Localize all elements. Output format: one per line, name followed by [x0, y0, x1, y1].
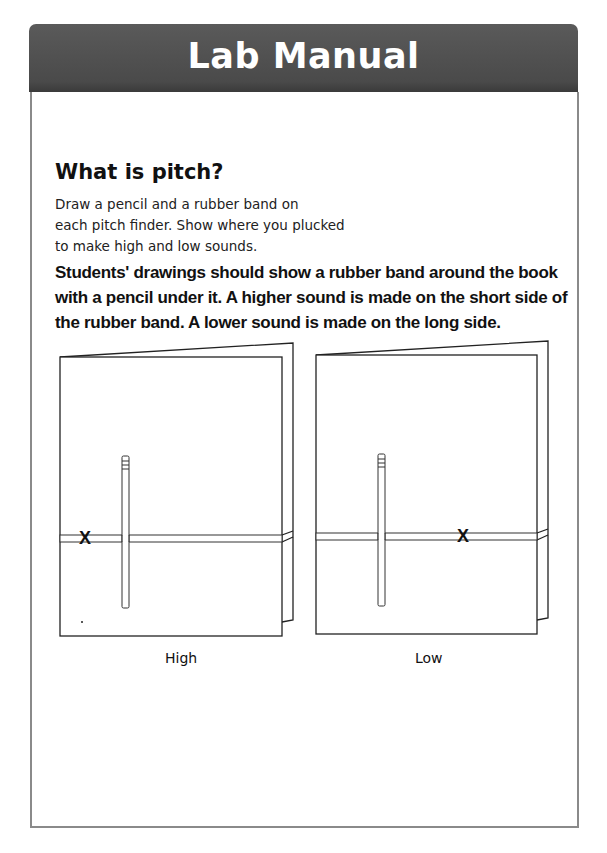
figure-label-high: High [165, 650, 197, 666]
section-heading: What is pitch? [55, 160, 224, 184]
instruction-line: to make high and low sounds. [55, 236, 355, 257]
instruction-line: each pitch finder. Show where you plucke… [55, 215, 355, 236]
pluck-mark-high: X [79, 528, 91, 549]
instructions: Draw a pencil and a rubber band on each … [55, 194, 355, 257]
pitch-finder-low-drawing [310, 338, 555, 643]
header-bar: Lab Manual [29, 24, 578, 92]
pitch-finder-high-drawing [55, 338, 300, 643]
page-title: Lab Manual [29, 36, 578, 76]
pluck-mark-low: X [457, 526, 469, 547]
answer-text: Students' drawings should show a rubber … [55, 260, 585, 335]
instruction-line: Draw a pencil and a rubber band on [55, 194, 355, 215]
figure-label-low: Low [415, 650, 443, 666]
